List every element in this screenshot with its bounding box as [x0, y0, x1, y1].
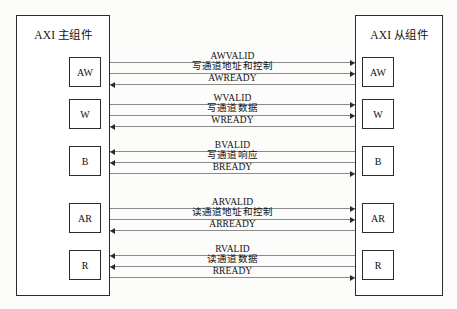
- arrowhead-aw-0: [350, 60, 355, 66]
- slave-channel-box-aw: AW: [362, 57, 394, 87]
- signal-label-r-1: 读通道数据: [207, 251, 258, 265]
- arrowhead-w-2: [110, 124, 115, 130]
- arrowhead-ar-1: [350, 217, 355, 223]
- signal-label-w-2: WREADY: [211, 115, 253, 125]
- arrowhead-b-0: [110, 149, 115, 155]
- master-channel-box-w: W: [69, 99, 101, 129]
- signal-label-r-2: RREADY: [213, 266, 253, 276]
- signal-line-w-2: [110, 126, 355, 127]
- signal-line-b-2: [110, 173, 355, 174]
- master-channel-box-r: R: [69, 250, 101, 280]
- master-channel-box-b: B: [69, 146, 101, 176]
- signal-label-ar-2: ARREADY: [209, 219, 256, 229]
- signal-line-ar-2: [110, 230, 355, 231]
- slave-component-title: AXI 从组件: [356, 26, 442, 42]
- arrowhead-ar-0: [350, 206, 355, 212]
- signal-line-r-2: [110, 277, 355, 278]
- arrowhead-w-1: [350, 113, 355, 119]
- signal-label-aw-1: 写通道地址和控制: [192, 58, 273, 72]
- arrowhead-b-1: [110, 160, 115, 166]
- signal-label-b-1: 写通道响应: [207, 147, 258, 161]
- slave-channel-box-b: B: [362, 146, 394, 176]
- master-channel-box-ar: AR: [69, 203, 101, 233]
- arrowhead-r-0: [110, 253, 115, 259]
- signal-label-ar-1: 读通道地址和控制: [192, 204, 273, 218]
- arrowhead-w-0: [350, 102, 355, 108]
- slave-channel-box-ar: AR: [362, 203, 394, 233]
- signal-label-b-2: BREADY: [213, 162, 253, 172]
- arrowhead-aw-1: [350, 71, 355, 77]
- arrowhead-r-1: [110, 264, 115, 270]
- master-channel-box-aw: AW: [69, 57, 101, 87]
- signal-label-w-1: 写通道数据: [207, 100, 258, 114]
- arrowhead-ar-2: [110, 228, 115, 234]
- signal-label-aw-2: AWREADY: [208, 73, 257, 83]
- arrowhead-b-2: [350, 171, 355, 177]
- signal-line-aw-2: [110, 84, 355, 85]
- axi-handshake-diagram: AXI 主组件 AXI 从组件 AWAWAWVALID写通道地址和控制AWREA…: [0, 0, 457, 309]
- slave-channel-box-w: W: [362, 99, 394, 129]
- arrowhead-aw-2: [110, 82, 115, 88]
- slave-channel-box-r: R: [362, 250, 394, 280]
- master-component-title: AXI 主组件: [17, 26, 109, 42]
- arrowhead-r-2: [350, 275, 355, 281]
